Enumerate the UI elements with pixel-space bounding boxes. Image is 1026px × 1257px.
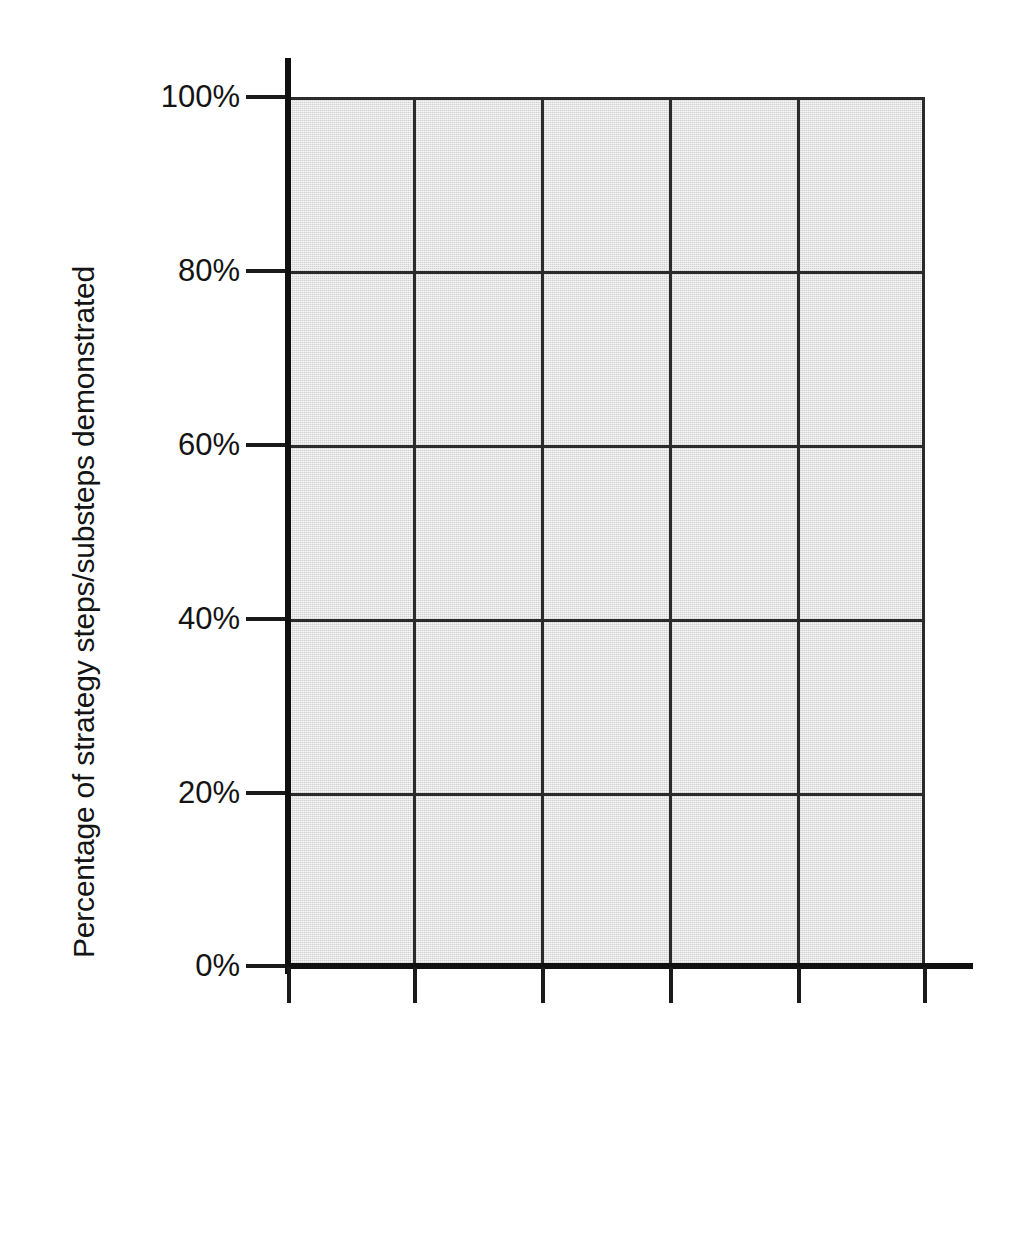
y-axis-title: Percentage of strategy steps/substeps de… (56, 58, 112, 958)
y-tick-label-40: 40% (40, 603, 240, 634)
x-tick-mark-5 (923, 967, 927, 1003)
y-tick-mark-20 (246, 791, 290, 795)
gridline-vertical-4 (797, 100, 800, 966)
y-tick-label-0: 0% (40, 950, 240, 981)
chart-figure: Percentage of strategy steps/substeps de… (0, 0, 1026, 1257)
x-tick-mark-1 (413, 967, 417, 1003)
gridline-horizontal-80 (287, 271, 922, 274)
y-tick-label-20: 20% (40, 777, 240, 808)
gridline-vertical-3 (669, 100, 672, 966)
y-tick-mark-100 (246, 95, 290, 99)
y-tick-label-80: 80% (40, 255, 240, 286)
y-tick-mark-60 (246, 443, 290, 447)
plot-area (287, 97, 925, 966)
x-tick-mark-2 (541, 967, 545, 1003)
x-tick-mark-3 (669, 967, 673, 1003)
x-tick-mark-0 (287, 967, 291, 1003)
y-tick-label-60: 60% (40, 429, 240, 460)
gridline-horizontal-20 (287, 793, 922, 796)
gridline-horizontal-40 (287, 619, 922, 622)
y-tick-mark-0 (246, 964, 290, 968)
y-axis-spine (285, 58, 291, 974)
gridline-horizontal-60 (287, 445, 922, 448)
gridline-vertical-1 (413, 100, 416, 966)
x-tick-mark-4 (797, 967, 801, 1003)
y-tick-label-100: 100% (40, 81, 240, 112)
y-tick-mark-80 (246, 269, 290, 273)
y-tick-mark-40 (246, 617, 290, 621)
gridline-vertical-2 (541, 100, 544, 966)
x-axis-spine (285, 963, 973, 969)
